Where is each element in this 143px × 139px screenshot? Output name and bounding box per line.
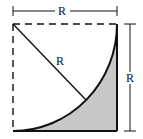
geometry-diagram: R R R xyxy=(0,0,143,139)
radius-label: R xyxy=(56,54,64,68)
right-dimension-label: R xyxy=(126,71,134,85)
radius-line xyxy=(13,24,86,100)
right-dimension: R xyxy=(124,24,136,131)
top-dimension: R xyxy=(13,4,117,18)
top-dimension-label: R xyxy=(58,4,66,18)
